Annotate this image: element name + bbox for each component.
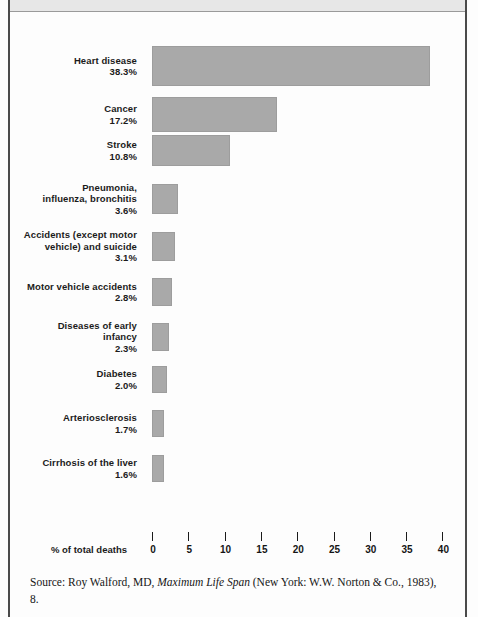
x-axis-tick-label: 20 [293,544,304,555]
x-axis-tick-label: 15 [256,544,267,555]
bar [152,278,172,306]
bar-track [145,46,465,86]
bar-value-label: 17.2% [10,115,137,127]
bar-category-label: Stroke10.8% [10,139,145,162]
bar-label-line: Pneumonia, [10,182,137,194]
bar-row: Diseases of earlyinfancy2.3% [10,323,465,351]
bar-category-label: Diseases of earlyinfancy2.3% [10,320,145,355]
bar-track [145,232,465,261]
page-border-right [465,0,467,617]
x-axis-tick-label: 40 [438,544,449,555]
bar-track [145,278,465,306]
bar-label-line: Diseases of early [10,320,137,332]
bar-value-label: 10.8% [10,151,137,163]
bar-label-line: Accidents (except motor [10,229,137,241]
page-header-band [10,0,465,11]
bar-label-line: vehicle) and suicide [10,241,137,253]
bar-track [145,455,465,482]
bar-category-label: Accidents (except motorvehicle) and suic… [10,229,145,264]
bar [152,46,430,86]
x-axis-tick [297,532,298,541]
chart-page: Heart disease38.3%Cancer17.2%Stroke10.8%… [0,0,478,617]
bar-row: Heart disease38.3% [10,46,465,86]
bar-row: Arteriosclerosis1.7% [10,410,465,437]
bar-track [145,366,465,393]
x-axis-tick [261,532,262,541]
bar [152,366,167,393]
bar [152,135,230,166]
x-axis-tick [442,532,443,541]
bar [152,97,277,132]
x-axis-tick-label: 25 [329,544,340,555]
bar-row: Pneumonia,influenza, bronchitis3.6% [10,184,465,214]
bar-value-label: 2.3% [10,343,137,355]
source-book-title: Maximum Life Span [157,576,250,588]
bar-track [145,135,465,166]
x-axis-title: % of total deaths [0,544,135,555]
x-axis-tick [188,532,189,541]
source-citation: Source: Roy Walford, MD, Maximum Life Sp… [30,574,440,608]
bar [152,323,169,351]
x-axis-tick [334,532,335,541]
x-axis-tick-label: 35 [402,544,413,555]
x-axis-tick [406,532,407,541]
x-axis-tick-label: 10 [220,544,231,555]
bar-value-label: 38.3% [10,66,137,78]
x-axis-tick [152,532,153,541]
bar-row: Cirrhosis of the liver1.6% [10,455,465,482]
bar-category-label: Pneumonia,influenza, bronchitis3.6% [10,182,145,217]
bar-row: Motor vehicle accidents2.8% [10,278,465,306]
bar-row: Accidents (except motorvehicle) and suic… [10,232,465,261]
bar-label-line: Diabetes [10,368,137,380]
bar-category-label: Arteriosclerosis1.7% [10,412,145,435]
bar-row: Diabetes2.0% [10,366,465,393]
bar-label-line: Cancer [10,103,137,115]
bar [152,455,164,482]
bar-category-label: Motor vehicle accidents2.8% [10,281,145,304]
bar [152,410,164,437]
bar [152,184,178,214]
x-axis-tick [225,532,226,541]
bar-value-label: 2.8% [10,292,137,304]
bar-label-line: Stroke [10,139,137,151]
bar-value-label: 3.6% [10,205,137,217]
bar-track [145,323,465,351]
bar-category-label: Diabetes2.0% [10,368,145,391]
source-prefix: Source: Roy Walford, MD, [30,576,157,588]
x-axis-tick-label: 30 [365,544,376,555]
x-axis-tick-label: 5 [187,544,193,555]
bar-label-line: Cirrhosis of the liver [10,457,137,469]
bar [152,232,175,261]
bar-row: Stroke10.8% [10,135,465,166]
bar-track [145,410,465,437]
bar-label-line: Arteriosclerosis [10,412,137,424]
bar-track [145,97,465,132]
bar-label-line: infancy [10,331,137,343]
x-axis-tick-label: 0 [150,544,156,555]
x-axis-tick [370,532,371,541]
bar-chart-plot-area: Heart disease38.3%Cancer17.2%Stroke10.8%… [10,12,465,532]
bar-value-label: 1.6% [10,469,137,481]
bar-category-label: Cancer17.2% [10,103,145,126]
bar-label-line: influenza, bronchitis [10,193,137,205]
bar-value-label: 3.1% [10,252,137,264]
bar-value-label: 1.7% [10,424,137,436]
bar-label-line: Heart disease [10,55,137,67]
bar-category-label: Heart disease38.3% [10,55,145,78]
bar-value-label: 2.0% [10,380,137,392]
bar-label-line: Motor vehicle accidents [10,281,137,293]
bar-track [145,184,465,214]
bar-category-label: Cirrhosis of the liver1.6% [10,457,145,480]
bar-row: Cancer17.2% [10,97,465,132]
